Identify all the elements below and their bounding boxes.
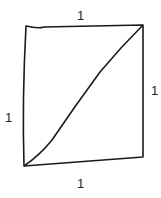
diagonal-line	[24, 25, 143, 166]
label-bottom: 1	[77, 176, 84, 191]
square-diagram: 1 1 1 1	[0, 0, 161, 198]
label-top: 1	[77, 8, 84, 23]
label-right: 1	[151, 83, 158, 98]
label-left: 1	[5, 110, 12, 125]
